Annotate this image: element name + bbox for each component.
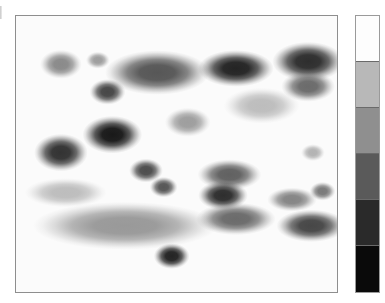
colorbar-band-3 bbox=[356, 154, 379, 200]
colorbar-band-2 bbox=[356, 108, 379, 154]
colorbar-band-0 bbox=[356, 16, 379, 62]
gel-spot bbox=[198, 50, 274, 87]
figure-stage bbox=[0, 0, 385, 303]
gel-spot bbox=[40, 50, 82, 79]
gel-spot bbox=[25, 178, 107, 207]
gel-spot bbox=[165, 108, 211, 137]
gel-spot bbox=[86, 52, 110, 69]
gel-spot bbox=[310, 182, 336, 201]
gel-spot bbox=[267, 188, 317, 212]
colorbar-band-1 bbox=[356, 62, 379, 108]
gel-panel bbox=[15, 15, 338, 293]
gel-spot bbox=[82, 116, 142, 154]
left-edge-tick bbox=[0, 6, 2, 19]
colorbar-band-5 bbox=[356, 246, 379, 292]
colorbar-band-4 bbox=[356, 200, 379, 246]
gel-spot bbox=[224, 88, 300, 124]
gel-spot bbox=[33, 202, 217, 250]
gel-spot bbox=[154, 243, 190, 269]
intensity-colorbar-legend bbox=[355, 15, 380, 293]
gel-spot bbox=[301, 144, 325, 161]
gel-spot bbox=[105, 50, 209, 94]
gel-canvas bbox=[16, 16, 337, 292]
gel-spot bbox=[34, 134, 88, 172]
gel-spot bbox=[150, 177, 178, 198]
